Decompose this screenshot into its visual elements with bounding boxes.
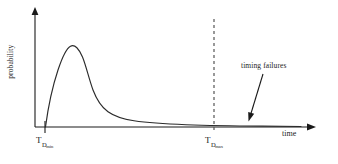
tick-label-tmin: TDmin — [36, 136, 53, 147]
y-axis-arrowhead — [32, 7, 39, 15]
probability-density-curve — [46, 46, 302, 127]
tmin-symbol: T — [36, 135, 42, 145]
timing-failures-annotation: timing failures — [241, 62, 286, 70]
annotation-pointer-line — [251, 74, 264, 115]
x-axis-arrowhead — [307, 124, 316, 131]
y-axis-label: probability — [7, 32, 15, 92]
tmin-subsubscript: min — [46, 144, 53, 149]
x-axis-label: time — [282, 130, 296, 138]
tmax-symbol: T — [205, 135, 211, 145]
annotation-pointer-arrowhead — [248, 112, 254, 122]
tmax-subsubscript: max — [215, 144, 223, 149]
tick-label-tmax: TDmax — [205, 136, 223, 147]
figure-container: probability time timing failures TDmin T… — [0, 0, 338, 164]
